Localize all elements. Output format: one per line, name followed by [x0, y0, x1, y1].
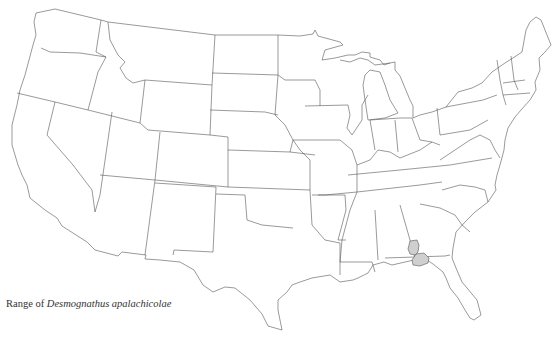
us-state-outline-map — [0, 0, 560, 338]
state-boundaries — [12, 9, 551, 330]
map-caption: Range of Desmognathus apalachicolae — [6, 298, 171, 309]
caption-prefix: Range of — [6, 298, 47, 309]
range-patch-north — [408, 240, 419, 255]
us-outline — [12, 9, 551, 330]
caption-species-name: Desmognathus apalachicolae — [47, 298, 172, 309]
